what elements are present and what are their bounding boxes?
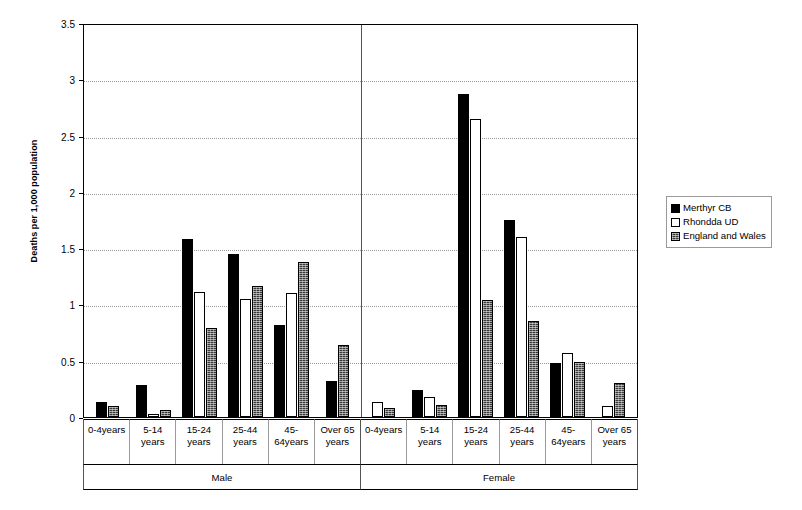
legend-swatch-icon <box>671 204 680 213</box>
x-axis-category-label-line: years <box>233 436 256 448</box>
x-axis-category-label-line: years <box>464 436 487 448</box>
bar <box>326 381 337 417</box>
bar <box>574 362 585 417</box>
x-axis-category-label-line: 45- <box>284 424 298 436</box>
age-group <box>407 25 453 417</box>
bar <box>436 405 447 417</box>
x-axis-category-label-line: 25-44 <box>510 424 535 436</box>
x-axis-category-label-line: 0-4years <box>88 424 125 436</box>
bar <box>528 321 539 417</box>
y-axis-tick-label: 2 <box>41 187 75 198</box>
x-axis-category-label-line: Over 65 <box>597 424 631 436</box>
x-axis-category-label: 5-14years <box>130 419 176 464</box>
y-axis-tick-label: 0.5 <box>41 356 75 367</box>
bar <box>412 390 423 417</box>
x-axis-category-label: Over 65years <box>592 419 637 464</box>
legend-item: Merthyr CB <box>671 201 766 215</box>
age-group <box>545 25 591 417</box>
x-axis-category-label: 0-4years <box>84 419 130 464</box>
x-axis-category-label: Over 65years <box>315 419 360 464</box>
bar-groups <box>84 25 637 417</box>
bar <box>384 408 395 417</box>
age-group <box>453 25 499 417</box>
y-axis-tick-label: 3.5 <box>41 19 75 30</box>
bar <box>562 353 573 417</box>
y-axis-tick-label: 1.5 <box>41 244 75 255</box>
bar <box>182 239 193 417</box>
x-axis-category-label-line: Over 65 <box>320 424 354 436</box>
x-axis-group-label: Female <box>360 464 638 490</box>
y-axis-tick-label: 3 <box>41 75 75 86</box>
x-axis-category-label-line: years <box>187 436 210 448</box>
legend: Merthyr CBRhondda UDEngland and Wales <box>666 196 772 248</box>
age-group <box>591 25 637 417</box>
x-axis-category-label: 45-64years <box>269 419 315 464</box>
age-group <box>130 25 176 417</box>
bar <box>148 414 159 417</box>
sex-block-female <box>361 25 638 417</box>
y-axis-tick-label: 2.5 <box>41 131 75 142</box>
x-axis-category-label-line: 45- <box>561 424 575 436</box>
x-axis-category-label-line: 64years <box>551 436 585 448</box>
x-axis-category-label-line: years <box>326 436 349 448</box>
age-group <box>361 25 407 417</box>
bar <box>298 262 309 417</box>
x-axis-category-label: 25-44years <box>500 419 546 464</box>
y-axis-title: Deaths per 1,000 population <box>29 101 39 301</box>
legend-item: England and Wales <box>671 229 766 243</box>
y-axis-tick-label: 1 <box>41 300 75 311</box>
x-axis-category-label-line: 5-14 <box>143 424 162 436</box>
x-axis-category-labels: 0-4years5-14years15-24years25-44years45-… <box>83 419 638 464</box>
bar <box>504 220 515 417</box>
x-axis-category-label-line: 0-4years <box>365 424 402 436</box>
bar <box>136 385 147 417</box>
x-axis-group-label: Male <box>83 464 360 490</box>
bar <box>274 325 285 417</box>
bar-chart: Deaths per 1,000 population 00.511.522.5… <box>0 0 802 510</box>
age-group <box>222 25 268 417</box>
x-axis-category-label-line: 15-24 <box>187 424 212 436</box>
bar <box>516 237 527 417</box>
bar <box>550 363 561 417</box>
legend-swatch-icon <box>671 232 680 241</box>
age-group <box>314 25 360 417</box>
bar <box>602 406 613 417</box>
x-axis-category-label-line: 5-14 <box>420 424 439 436</box>
x-axis-category-label-line: 15-24 <box>464 424 489 436</box>
y-axis-tick-label: 0 <box>41 413 75 424</box>
age-group <box>176 25 222 417</box>
x-axis-category-label-line: years <box>510 436 533 448</box>
legend-swatch-icon <box>671 218 680 227</box>
bar <box>228 254 239 417</box>
x-axis-half-female: 0-4years5-14years15-24years25-44years45-… <box>360 419 638 464</box>
plot-area <box>83 24 638 418</box>
legend-item: Rhondda UD <box>671 215 766 229</box>
bar <box>458 94 469 417</box>
x-axis-half-male: 0-4years5-14years15-24years25-44years45-… <box>83 419 360 464</box>
x-axis-category-label-line: 64years <box>274 436 308 448</box>
bar <box>240 299 251 417</box>
x-axis-category-label-line: years <box>418 436 441 448</box>
bar <box>424 397 435 417</box>
bar <box>108 406 119 417</box>
x-axis-category-label: 5-14years <box>407 419 453 464</box>
bar <box>614 383 625 417</box>
sex-block-male <box>84 25 361 417</box>
legend-item-label: Rhondda UD <box>683 215 738 229</box>
x-axis-category-label: 45-64years <box>546 419 592 464</box>
bar <box>482 300 493 417</box>
bar <box>160 410 171 417</box>
legend-item-label: England and Wales <box>683 229 766 243</box>
x-axis-category-label: 25-44years <box>223 419 269 464</box>
x-axis-group-labels: MaleFemale <box>83 464 638 490</box>
x-axis-category-label: 0-4years <box>361 419 407 464</box>
x-axis-category-label-line: years <box>603 436 626 448</box>
x-axis-category-label: 15-24years <box>176 419 222 464</box>
legend-item-label: Merthyr CB <box>683 201 732 215</box>
bar <box>338 345 349 417</box>
bar <box>252 286 263 417</box>
x-axis-category-label-line: years <box>141 436 164 448</box>
bar <box>372 402 383 417</box>
x-axis-category-label: 15-24years <box>453 419 499 464</box>
age-group <box>268 25 314 417</box>
